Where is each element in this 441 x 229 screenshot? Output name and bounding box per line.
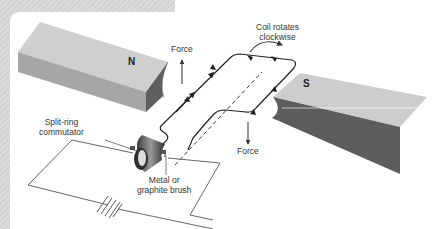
force-label-bottom: Force bbox=[237, 146, 259, 156]
rotation-arrow bbox=[250, 42, 282, 52]
current-arrows bbox=[184, 55, 277, 115]
north-pole-label: N bbox=[128, 56, 135, 67]
dc-motor-diagram: N S Coil rotates clockwise Force Force S… bbox=[0, 0, 441, 229]
split-ring-commutator bbox=[130, 135, 166, 172]
diagram-graphics bbox=[0, 0, 441, 229]
coil-rotation-label: Coil rotates clockwise bbox=[256, 22, 299, 42]
commutator-label: Split-ring commutator bbox=[39, 117, 84, 137]
south-pole-label: S bbox=[303, 78, 310, 89]
south-magnet bbox=[272, 73, 435, 174]
coil bbox=[155, 54, 296, 165]
brush-label: Metal or graphite brush bbox=[137, 175, 191, 195]
force-label-top: Force bbox=[171, 44, 193, 54]
north-magnet bbox=[18, 22, 168, 112]
battery-icon bbox=[97, 196, 122, 218]
